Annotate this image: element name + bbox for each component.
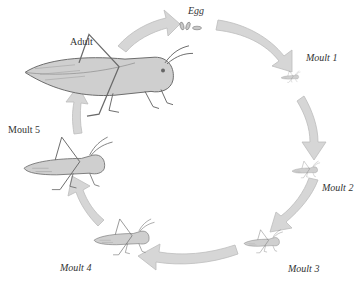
moult3-locust-illustration xyxy=(244,230,283,253)
cycle-graphics xyxy=(0,0,363,281)
life-cycle-diagram: Egg Adult Moult 1 Moult 2 Moult 3 Moult … xyxy=(0,0,363,281)
stage-label-moult1: Moult 1 xyxy=(306,52,337,63)
stage-label-moult3: Moult 3 xyxy=(288,263,319,274)
stage-label-moult2: Moult 2 xyxy=(322,182,353,193)
eggs-illustration xyxy=(179,22,201,31)
cycle-arrows xyxy=(66,10,326,270)
stage-label-egg: Egg xyxy=(188,5,204,16)
moult4-locust-illustration xyxy=(94,219,154,255)
stage-label-moult5: Moult 5 xyxy=(8,124,40,135)
arrow-adult-to-egg xyxy=(118,10,180,52)
arrow-moult3-to-moult4 xyxy=(138,244,238,270)
arrow-egg-to-moult1 xyxy=(216,20,292,72)
stage-label-adult: Adult xyxy=(70,36,93,47)
stage-label-moult4: Moult 4 xyxy=(60,262,91,273)
arrow-moult4-to-moult5 xyxy=(68,176,104,226)
moult1-locust-illustration xyxy=(281,71,300,83)
arrow-moult1-to-moult2 xyxy=(297,96,326,160)
moult5-locust-illustration xyxy=(24,137,113,189)
adult-locust-illustration xyxy=(25,34,193,116)
arrow-moult2-to-moult3 xyxy=(270,178,318,232)
moult2-locust-illustration xyxy=(292,161,320,178)
